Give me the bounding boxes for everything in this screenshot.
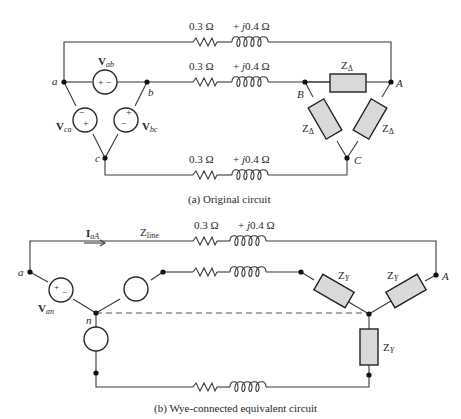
van-label: Van	[38, 302, 54, 316]
node-A-label: A	[441, 270, 449, 282]
impedance-y-c-icon	[360, 329, 378, 365]
reactance-label: + j0.4 Ω	[233, 20, 270, 32]
inductor-icon	[232, 77, 268, 87]
node-a-label: a	[52, 75, 58, 87]
node-a-label: a	[18, 266, 24, 278]
node-A-label: A	[395, 77, 403, 89]
resistor-icon	[193, 237, 217, 245]
minus-sign: −	[79, 107, 85, 118]
resistor-icon	[193, 38, 217, 46]
resistance-label: 0.3 Ω	[189, 60, 214, 72]
current-label: IaA	[86, 227, 99, 241]
node-c	[102, 155, 107, 160]
zline-label: Zline	[140, 226, 159, 240]
part-a-original-circuit: 0.3 Ω + j0.4 Ω 0.3 Ω + j0.4 Ω 0.3 Ω + j0…	[52, 20, 403, 206]
current-annotation: IaA Zline	[84, 226, 159, 246]
resistance-label: 0.3 Ω	[189, 153, 214, 165]
line-c-wire	[96, 373, 369, 392]
z-delta-label: ZΔ	[341, 59, 353, 73]
voltage-source-ab-icon	[93, 70, 117, 94]
resistance-label: 0.3 Ω	[189, 20, 214, 32]
inductor-icon	[230, 382, 266, 392]
resistor-icon	[193, 268, 217, 276]
node-b	[144, 79, 149, 84]
node-A	[433, 272, 438, 277]
voltage-source-cn-icon	[84, 327, 108, 351]
resistor-icon	[193, 383, 217, 391]
node-c	[93, 370, 98, 375]
node-n-label: n	[86, 314, 92, 326]
wye-source: + − Van a n	[18, 266, 166, 376]
vab-label: Vab	[98, 55, 114, 69]
line-b-wire	[163, 267, 301, 277]
plus-sign: +	[83, 118, 89, 129]
node-A	[388, 79, 393, 84]
node-N	[366, 311, 371, 316]
node-a	[27, 269, 32, 274]
node-B	[298, 269, 303, 274]
node-b-label: b	[148, 86, 154, 98]
inductor-icon	[232, 37, 268, 47]
minus-sign: −	[121, 118, 127, 129]
z-y-label: ZY	[387, 269, 400, 283]
node-a	[61, 79, 66, 84]
wye-load: ZY ZY ZY A	[298, 269, 449, 378]
impedance-ab-icon	[330, 74, 366, 92]
node-c-label: c	[95, 152, 100, 164]
voltage-source-bn-icon	[124, 277, 148, 301]
delta-source: + − Vab − + Vca + − Vbc a b c	[52, 55, 158, 164]
node-C	[344, 155, 349, 160]
resistor-icon	[193, 171, 217, 179]
z-delta-label: ZΔ	[382, 122, 394, 136]
z-delta-label: ZΔ	[302, 122, 314, 136]
reactance-label: + j0.4 Ω	[233, 60, 270, 72]
z-y-label: ZY	[338, 269, 351, 283]
node-n	[93, 310, 98, 315]
node-C-label: C	[354, 154, 362, 166]
node-B-label: B	[297, 88, 304, 100]
reactance-label: + j0.4 Ω	[233, 153, 270, 165]
node-C	[366, 372, 371, 377]
part-b-wye-equivalent: IaA Zline 0.3 Ω + j0.4 Ω	[18, 219, 449, 415]
line-c-wire: 0.3 Ω + j0.4 Ω	[105, 153, 347, 180]
vca-label: Vca	[56, 120, 72, 134]
reactance-label: + j0.4 Ω	[238, 219, 275, 231]
inductor-icon	[230, 236, 266, 246]
circuit-diagram: 0.3 Ω + j0.4 Ω 0.3 Ω + j0.4 Ω 0.3 Ω + j0…	[0, 0, 461, 419]
inductor-icon	[232, 170, 268, 180]
node-b	[160, 269, 165, 274]
caption-a: (a) Original circuit	[188, 193, 270, 206]
minus-sign: −	[106, 77, 112, 88]
plus-sign: +	[98, 77, 104, 88]
vbc-label: Vbc	[142, 120, 158, 134]
caption-b: (b) Wye-connected equivalent circuit	[154, 402, 317, 415]
minus-sign: −	[62, 287, 67, 297]
resistance-label: 0.3 Ω	[194, 219, 219, 231]
plus-sign: +	[126, 107, 132, 118]
resistor-icon	[193, 78, 217, 86]
node-B	[302, 79, 307, 84]
z-y-label: ZY	[383, 341, 396, 355]
inductor-icon	[230, 267, 266, 277]
plus-sign: +	[54, 282, 59, 292]
delta-load: ZΔ ZΔ ZΔ B A C	[297, 59, 403, 166]
voltage-source-an-icon	[49, 278, 73, 302]
